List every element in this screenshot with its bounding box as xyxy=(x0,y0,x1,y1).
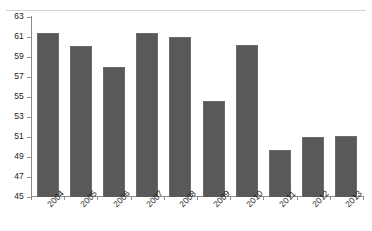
bar-slot xyxy=(131,17,164,197)
bar[interactable] xyxy=(203,101,225,197)
y-axis-tick-label: 55 xyxy=(14,91,24,101)
x-axis-labels: 2004200520062007200820092010201120122013 xyxy=(31,200,363,231)
y-axis-tick-label: 47 xyxy=(14,171,24,181)
bar[interactable] xyxy=(37,33,59,197)
bar[interactable] xyxy=(335,136,357,197)
y-axis-tick-label: 51 xyxy=(14,131,24,141)
bar-slot xyxy=(97,17,130,197)
plot-area: 45474951535557596163 xyxy=(31,17,363,197)
bar-chart: 45474951535557596163 2004200520062007200… xyxy=(0,0,372,231)
y-axis-tick-label: 59 xyxy=(14,51,24,61)
bar[interactable] xyxy=(103,67,125,197)
bar-slot xyxy=(164,17,197,197)
bar[interactable] xyxy=(236,45,258,197)
bar[interactable] xyxy=(169,37,191,197)
top-divider-rule xyxy=(6,10,366,11)
bar-slot xyxy=(230,17,263,197)
bar-slot xyxy=(297,17,330,197)
bar-slot xyxy=(263,17,296,197)
bar-slot xyxy=(197,17,230,197)
bar[interactable] xyxy=(70,46,92,197)
y-axis-tick-label: 49 xyxy=(14,151,24,161)
bar-slot xyxy=(31,17,64,197)
bar[interactable] xyxy=(136,33,158,197)
bar[interactable] xyxy=(302,137,324,197)
y-axis-tick-label: 57 xyxy=(14,71,24,81)
y-axis-tick-label: 63 xyxy=(14,11,24,21)
y-axis-tick-label: 61 xyxy=(14,31,24,41)
y-axis-tick-label: 45 xyxy=(14,191,24,201)
bar-slot xyxy=(330,17,363,197)
x-axis-tick-mark xyxy=(363,196,364,200)
bar-slot xyxy=(64,17,97,197)
bar-series xyxy=(31,17,363,197)
y-axis-tick-label: 53 xyxy=(14,111,24,121)
